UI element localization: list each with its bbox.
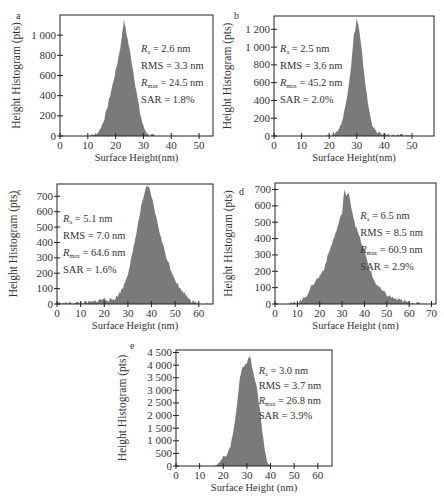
stat-sar: SAR = 2.0% (280, 94, 334, 105)
x-tick-label: 0 (57, 139, 63, 151)
x-tick-label: 60 (312, 469, 324, 481)
stat-sar: SAR = 1.6% (63, 264, 117, 275)
y-axis-title: Height Histogram (pts) (116, 354, 129, 461)
y-axis-title: Height Histogram (pts) (10, 22, 23, 129)
y-tick-label: 3 000 (147, 384, 172, 396)
y-tick-label: 400 (254, 94, 271, 106)
y-tick-label: 0 (266, 298, 272, 310)
x-tick-label: 10 (194, 469, 206, 481)
y-axis-title: Height Histogram (pts) (222, 190, 235, 297)
x-tick-label: 50 (381, 307, 393, 319)
stat-rmax: Rmax = 24.5 nm (140, 77, 203, 89)
x-axis-title: Surface Height(nm) (312, 152, 396, 164)
x-tick-label: 30 (351, 139, 363, 151)
x-tick-label: 0 (271, 139, 277, 151)
histogram-area (57, 186, 208, 305)
y-tick-label: 700 (255, 183, 272, 195)
panel-letter: a (16, 10, 21, 21)
y-tick-label: 700 (37, 190, 54, 202)
y-tick-label: 200 (255, 265, 272, 277)
y-tick-label: 2 500 (147, 396, 172, 408)
x-tick-label: 40 (265, 469, 277, 481)
y-tick-label: 1 200 (245, 23, 270, 35)
stat-sar: SAR = 1.8% (141, 94, 195, 105)
y-tick-label: 500 (156, 447, 173, 459)
stat-rms: RMS = 3.7 nm (259, 380, 322, 391)
panel-letter: b (234, 10, 239, 21)
y-tick-label: 1 500 (147, 422, 172, 434)
x-axis-title: Surface Height(nm) (95, 152, 179, 164)
x-tick-label: 20 (99, 307, 111, 319)
x-tick-label: 70 (426, 307, 438, 319)
stat-rms: RMS = 8.5 nm (360, 227, 423, 238)
x-tick-label: 30 (337, 307, 349, 319)
x-tick-label: 20 (314, 307, 326, 319)
x-tick-label: 40 (166, 139, 178, 151)
y-tick-label: 400 (255, 232, 272, 244)
y-tick-label: 0 (48, 298, 54, 310)
y-tick-label: 600 (40, 69, 57, 81)
y-tick-label: 200 (254, 112, 271, 124)
y-tick-label: 500 (37, 221, 54, 233)
panel-a: 02004006008001 00001020304050Surface Hei… (10, 10, 213, 164)
x-tick-label: 40 (379, 139, 391, 151)
figure: 02004006008001 00001020304050Surface Hei… (0, 0, 444, 503)
stat-rmax: Rmax = 60.9 nm (359, 244, 422, 256)
x-tick-label: 40 (359, 307, 371, 319)
stat-sar: SAR = 2.9% (360, 261, 414, 272)
y-tick-label: 0 (51, 130, 57, 142)
x-axis-title: Surface Height (nm) (312, 320, 399, 332)
x-axis-title: Surface Height (nm) (92, 320, 179, 332)
x-tick-label: 20 (218, 469, 230, 481)
x-tick-label: 10 (296, 139, 308, 151)
x-tick-label: 50 (406, 139, 418, 151)
panel-e: 05001 0001 5002 0002 5003 0003 5004 0004… (116, 340, 332, 494)
y-tick-label: 3 500 (147, 371, 172, 383)
x-tick-label: 20 (110, 139, 122, 151)
y-axis-title: Height Histogram (pts) (7, 190, 20, 297)
stat-rms: RMS = 3.3 nm (141, 60, 204, 71)
x-tick-label: 0 (54, 307, 60, 319)
panel-c: 01002003004005006007000102030405060Surfa… (7, 184, 213, 332)
stat-rms: RMS = 3.6 nm (280, 60, 343, 71)
y-tick-label: 800 (254, 58, 271, 70)
y-tick-label: 400 (40, 89, 57, 101)
y-tick-label: 500 (255, 216, 272, 228)
y-tick-label: 0 (265, 130, 271, 142)
stat-ra: Ra = 3.0 nm (258, 365, 308, 377)
y-tick-label: 200 (37, 267, 54, 279)
y-tick-label: 4 500 (147, 346, 172, 358)
y-tick-label: 800 (40, 49, 57, 61)
x-tick-label: 40 (146, 307, 158, 319)
stat-rmax: Rmax = 45.2 nm (279, 77, 342, 89)
y-tick-label: 300 (37, 251, 54, 263)
stat-rms: RMS = 7.0 nm (63, 230, 126, 241)
x-tick-label: 30 (241, 469, 253, 481)
x-tick-label: 60 (404, 307, 416, 319)
y-tick-label: 1 000 (31, 29, 56, 41)
x-tick-label: 50 (170, 307, 182, 319)
x-tick-label: 20 (324, 139, 336, 151)
y-tick-label: 300 (255, 248, 272, 260)
y-tick-label: 2 000 (147, 409, 172, 421)
x-tick-label: 50 (194, 139, 206, 151)
panel-d: 0100200300400500600700010203040506070Sur… (222, 183, 438, 332)
y-tick-label: 600 (254, 76, 271, 88)
y-tick-label: 600 (37, 205, 54, 217)
stat-rmax: Rmax = 64.6 nm (62, 247, 125, 259)
panel-letter: c (17, 186, 22, 197)
x-tick-label: 30 (122, 307, 134, 319)
stat-ra: Ra = 2.5 nm (279, 43, 329, 55)
x-tick-label: 50 (289, 469, 301, 481)
y-tick-label: 400 (37, 236, 54, 248)
y-tick-label: 100 (37, 282, 54, 294)
stat-ra: Ra = 6.5 nm (359, 210, 409, 222)
y-tick-label: 100 (255, 281, 272, 293)
y-tick-label: 0 (167, 460, 173, 472)
panel-b: 02004006008001 0001 20001020304050Surfac… (221, 10, 434, 164)
y-axis-title: Height Histogram (pts) (221, 22, 234, 129)
y-tick-label: 600 (255, 199, 272, 211)
stat-rmax: Rmax = 26.8 nm (258, 395, 321, 407)
x-tick-label: 0 (173, 469, 179, 481)
x-tick-label: 0 (272, 307, 278, 319)
